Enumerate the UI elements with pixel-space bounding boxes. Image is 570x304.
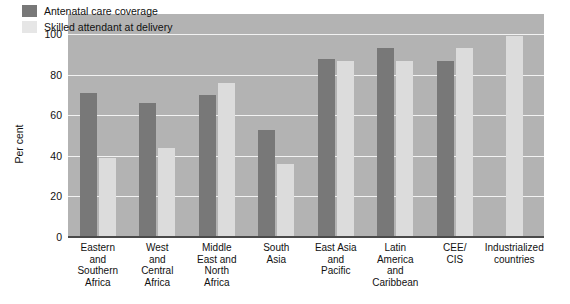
bar	[139, 103, 156, 237]
bar	[456, 48, 473, 237]
bar	[396, 61, 413, 237]
chart-legend: Antenatal care coverage Skilled attendan…	[22, 5, 172, 33]
x-axis-line	[68, 236, 544, 238]
y-axis-tick-label: 40	[28, 151, 62, 161]
bar	[337, 61, 354, 237]
x-axis-category-label: Industrialized countries	[479, 242, 551, 265]
chart-container: 020406080100 Per cent Antenatal care cov…	[0, 0, 570, 304]
bar	[199, 95, 216, 237]
y-axis-tick-label: 20	[28, 191, 62, 201]
y-axis-tick-label: 0	[28, 232, 62, 242]
legend-swatch-icon-skilled-attendant	[22, 21, 37, 33]
bar	[377, 48, 394, 237]
y-axis-title: Per cent	[13, 109, 25, 179]
gridline-100	[68, 34, 544, 35]
legend-label-skilled-attendant: Skilled attendant at delivery	[44, 21, 172, 33]
bar	[277, 164, 294, 237]
bar	[158, 148, 175, 237]
legend-label-antenatal: Antenatal care coverage	[44, 5, 158, 17]
plot-area	[68, 14, 544, 237]
bar	[318, 59, 335, 237]
legend-item-antenatal: Antenatal care coverage	[22, 5, 172, 17]
x-axis-labels: Eastern and Southern AfricaWest and Cent…	[68, 242, 544, 304]
bar	[506, 36, 523, 237]
bar	[258, 130, 275, 237]
bar	[437, 61, 454, 237]
y-axis-tick-label: 60	[28, 110, 62, 120]
bar	[99, 158, 116, 237]
legend-swatch-icon-antenatal	[22, 5, 37, 17]
bar	[80, 93, 97, 237]
bar	[218, 83, 235, 237]
legend-item-skilled-attendant: Skilled attendant at delivery	[22, 21, 172, 33]
y-axis-tick-label: 80	[28, 70, 62, 80]
y-axis-ticks: 020406080100	[26, 0, 62, 304]
